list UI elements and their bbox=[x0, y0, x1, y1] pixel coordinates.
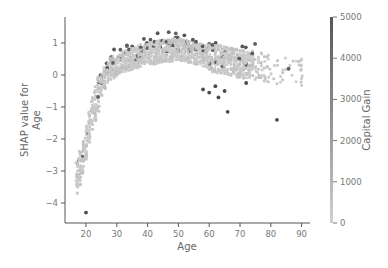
data-point bbox=[171, 60, 174, 63]
data-point bbox=[223, 72, 226, 75]
data-point bbox=[78, 178, 81, 181]
data-point bbox=[164, 59, 167, 62]
data-point bbox=[195, 63, 198, 66]
data-point bbox=[245, 55, 248, 58]
data-point bbox=[98, 105, 101, 108]
data-point bbox=[121, 68, 124, 71]
data-point bbox=[238, 53, 241, 56]
data-point bbox=[204, 58, 207, 61]
data-point bbox=[148, 43, 151, 46]
data-point bbox=[266, 66, 269, 69]
data-point bbox=[124, 67, 127, 70]
data-point bbox=[103, 82, 106, 85]
data-point bbox=[142, 37, 146, 41]
data-point bbox=[150, 59, 153, 62]
data-point bbox=[260, 76, 263, 79]
data-point bbox=[261, 69, 264, 72]
colorbar-tick-label: 2000 bbox=[340, 136, 362, 146]
data-point bbox=[241, 59, 244, 62]
data-point bbox=[256, 71, 259, 74]
data-point bbox=[79, 166, 82, 169]
data-point bbox=[226, 68, 229, 71]
data-point bbox=[301, 75, 304, 78]
data-point bbox=[248, 76, 251, 79]
data-point bbox=[137, 52, 140, 55]
colorbar-tick-label: 3000 bbox=[340, 94, 362, 104]
data-point bbox=[196, 46, 199, 49]
data-point bbox=[261, 74, 264, 77]
data-point bbox=[146, 58, 149, 61]
data-point bbox=[247, 65, 250, 68]
data-point bbox=[177, 42, 180, 45]
data-point bbox=[226, 64, 229, 67]
data-point bbox=[158, 47, 161, 50]
data-point bbox=[90, 100, 93, 103]
x-tick-label: 80 bbox=[265, 229, 276, 239]
data-point bbox=[96, 95, 100, 99]
data-point bbox=[210, 68, 213, 71]
data-point bbox=[82, 140, 85, 143]
data-point bbox=[190, 56, 193, 59]
data-point bbox=[176, 44, 179, 47]
data-point bbox=[242, 51, 245, 54]
data-point bbox=[279, 81, 282, 84]
data-point bbox=[186, 59, 189, 62]
data-point-high-capital-gain bbox=[244, 81, 248, 85]
data-point bbox=[76, 162, 79, 165]
data-point bbox=[171, 38, 174, 41]
data-point-high-capital-gain bbox=[223, 89, 227, 93]
data-point bbox=[82, 165, 85, 168]
data-point-high-capital-gain bbox=[207, 91, 211, 95]
data-point bbox=[260, 53, 263, 56]
data-point bbox=[245, 59, 248, 62]
data-point bbox=[87, 120, 90, 123]
data-point bbox=[189, 59, 192, 62]
data-point bbox=[257, 68, 260, 71]
data-point bbox=[177, 57, 180, 60]
data-point-high-capital-gain bbox=[84, 211, 88, 215]
data-point bbox=[165, 54, 168, 57]
data-point bbox=[174, 31, 178, 35]
data-point bbox=[78, 159, 81, 162]
data-point bbox=[207, 66, 210, 69]
colorbar-tick-label: 5000 bbox=[340, 12, 362, 22]
data-point bbox=[300, 69, 303, 72]
y-tick-label: −3 bbox=[45, 166, 58, 176]
data-point bbox=[131, 57, 134, 60]
data-point bbox=[81, 168, 84, 171]
data-point bbox=[242, 61, 245, 64]
data-point bbox=[242, 77, 245, 80]
data-point bbox=[75, 173, 78, 176]
data-point bbox=[118, 58, 121, 61]
data-point bbox=[133, 60, 136, 63]
data-point bbox=[106, 69, 109, 72]
data-point bbox=[85, 125, 88, 128]
data-point bbox=[88, 130, 91, 133]
data-point bbox=[238, 76, 241, 79]
data-point bbox=[93, 111, 96, 114]
data-point bbox=[260, 62, 263, 65]
data-point bbox=[244, 45, 248, 49]
data-point bbox=[242, 66, 245, 69]
data-point bbox=[111, 61, 115, 65]
data-point bbox=[112, 55, 115, 58]
data-point bbox=[214, 49, 217, 52]
x-tick-label: 90 bbox=[296, 229, 307, 239]
data-point bbox=[94, 106, 97, 109]
data-point bbox=[112, 48, 116, 52]
x-tick-label: 30 bbox=[111, 229, 122, 239]
data-point bbox=[97, 101, 100, 104]
data-point bbox=[229, 58, 232, 61]
data-point bbox=[113, 77, 116, 80]
data-point bbox=[236, 53, 239, 56]
data-point bbox=[281, 79, 284, 82]
data-point bbox=[244, 62, 247, 65]
data-point bbox=[99, 76, 102, 79]
data-point bbox=[281, 69, 284, 72]
data-point bbox=[121, 70, 124, 73]
data-point bbox=[128, 51, 131, 54]
data-point bbox=[267, 81, 270, 84]
data-point bbox=[158, 53, 161, 56]
data-point bbox=[155, 56, 158, 59]
data-point bbox=[292, 60, 295, 63]
